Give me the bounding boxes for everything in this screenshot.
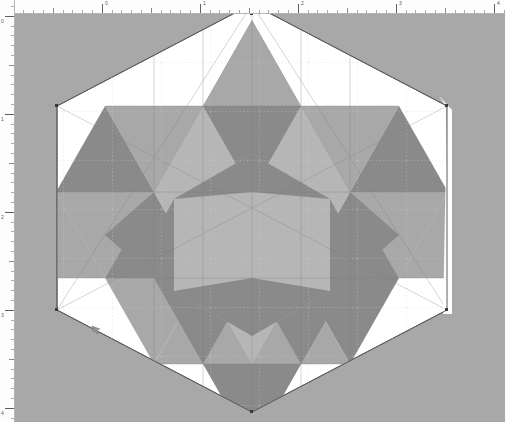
ruler-tick [141, 10, 142, 13]
ruler-label: 2 [1, 215, 4, 220]
ruler-tick [288, 10, 289, 13]
ruler-label: 1 [1, 117, 4, 122]
ruler-tick [11, 104, 14, 105]
drawing-canvas[interactable] [15, 14, 505, 422]
ruler-tick [9, 65, 14, 66]
ruler-tick [386, 10, 387, 13]
ruler-tick [5, 16, 14, 17]
ruler-tick [190, 10, 191, 13]
ruler-label: 1 [203, 0, 206, 6]
ruler-tick [259, 10, 260, 13]
ruler-tick [11, 173, 14, 174]
ruler-label: 4 [1, 411, 4, 416]
ruler-tick [33, 10, 34, 13]
ruler-tick [464, 10, 465, 13]
ruler-tick [11, 280, 14, 281]
ruler-tick [9, 261, 14, 262]
ruler-tick [239, 10, 240, 13]
ruler-tick [249, 8, 250, 13]
ruler-tick [406, 10, 407, 13]
ruler-tick [484, 10, 485, 13]
ruler-label: 0 [105, 0, 108, 6]
ruler-tick [357, 10, 358, 13]
ruler-tick [53, 8, 54, 13]
ruler-tick [11, 349, 14, 350]
ruler-tick [11, 26, 14, 27]
ruler-tick [82, 10, 83, 13]
ruler-label: 4 [497, 0, 500, 6]
ruler-tick [11, 202, 14, 203]
ruler-tick [366, 10, 367, 13]
ruler-label: 3 [399, 0, 402, 6]
ruler-tick [11, 378, 14, 379]
ruler-tick [11, 388, 14, 389]
ruler-tick [11, 369, 14, 370]
ruler-tick [5, 212, 14, 213]
ruler-tick [5, 310, 14, 311]
ruler-tick [11, 300, 14, 301]
ruler-tick [11, 94, 14, 95]
ruler-tick [11, 241, 14, 242]
ruler-tick [11, 418, 14, 419]
horizontal-ruler[interactable]: 01234 [14, 0, 505, 14]
ruler-tick [455, 10, 456, 13]
ruler-tick [11, 320, 14, 321]
ruler-tick [9, 359, 14, 360]
ruler-tick [11, 290, 14, 291]
ruler-tick [308, 10, 309, 13]
vertical-ruler[interactable]: 01234 [0, 0, 15, 422]
ruler-tick [347, 8, 348, 13]
ruler-tick [445, 8, 446, 13]
ruler-tick [11, 231, 14, 232]
ruler-tick [11, 35, 14, 36]
ruler-tick [72, 10, 73, 13]
ruler-tick [278, 10, 279, 13]
ruler-tick [11, 55, 14, 56]
ruler-label: 2 [301, 0, 304, 6]
ruler-label: 3 [1, 313, 4, 318]
ruler-tick [9, 163, 14, 164]
ruler-tick [200, 4, 201, 13]
ruler-tick [5, 114, 14, 115]
ruler-tick [11, 398, 14, 399]
ruler-tick [11, 271, 14, 272]
ruler-tick [11, 6, 14, 7]
ruler-tick [131, 10, 132, 13]
ruler-tick [102, 4, 103, 13]
ruler-tick [11, 339, 14, 340]
application-window: 01234 01234 [0, 0, 505, 422]
ruler-tick [298, 4, 299, 13]
ruler-tick [170, 10, 171, 13]
ruler-tick [504, 10, 505, 13]
ruler-tick [376, 10, 377, 13]
ruler-tick [92, 10, 93, 13]
ruler-tick [494, 4, 495, 13]
ruler-tick [112, 10, 113, 13]
ruler-tick [11, 143, 14, 144]
ruler-tick [11, 153, 14, 154]
ruler-tick [11, 45, 14, 46]
ruler-tick [11, 192, 14, 193]
ruler-tick [229, 10, 230, 13]
ruler-tick [11, 182, 14, 183]
ruler-tick [474, 10, 475, 13]
artwork-svg[interactable] [15, 14, 505, 422]
ruler-tick [43, 10, 44, 13]
ruler-tick [63, 10, 64, 13]
ruler-tick [415, 10, 416, 13]
ruler-tick [327, 10, 328, 13]
ruler-tick [180, 10, 181, 13]
ruler-tick [11, 75, 14, 76]
ruler-tick [337, 10, 338, 13]
ruler-tick [151, 8, 152, 13]
ruler-tick [396, 4, 397, 13]
ruler-tick [219, 10, 220, 13]
ruler-tick [5, 408, 14, 409]
ruler-tick [161, 10, 162, 13]
ruler-tick [435, 10, 436, 13]
ruler-tick [11, 133, 14, 134]
ruler-tick [425, 10, 426, 13]
ruler-tick [268, 10, 269, 13]
ruler-tick [23, 10, 24, 13]
ruler-tick [210, 10, 211, 13]
